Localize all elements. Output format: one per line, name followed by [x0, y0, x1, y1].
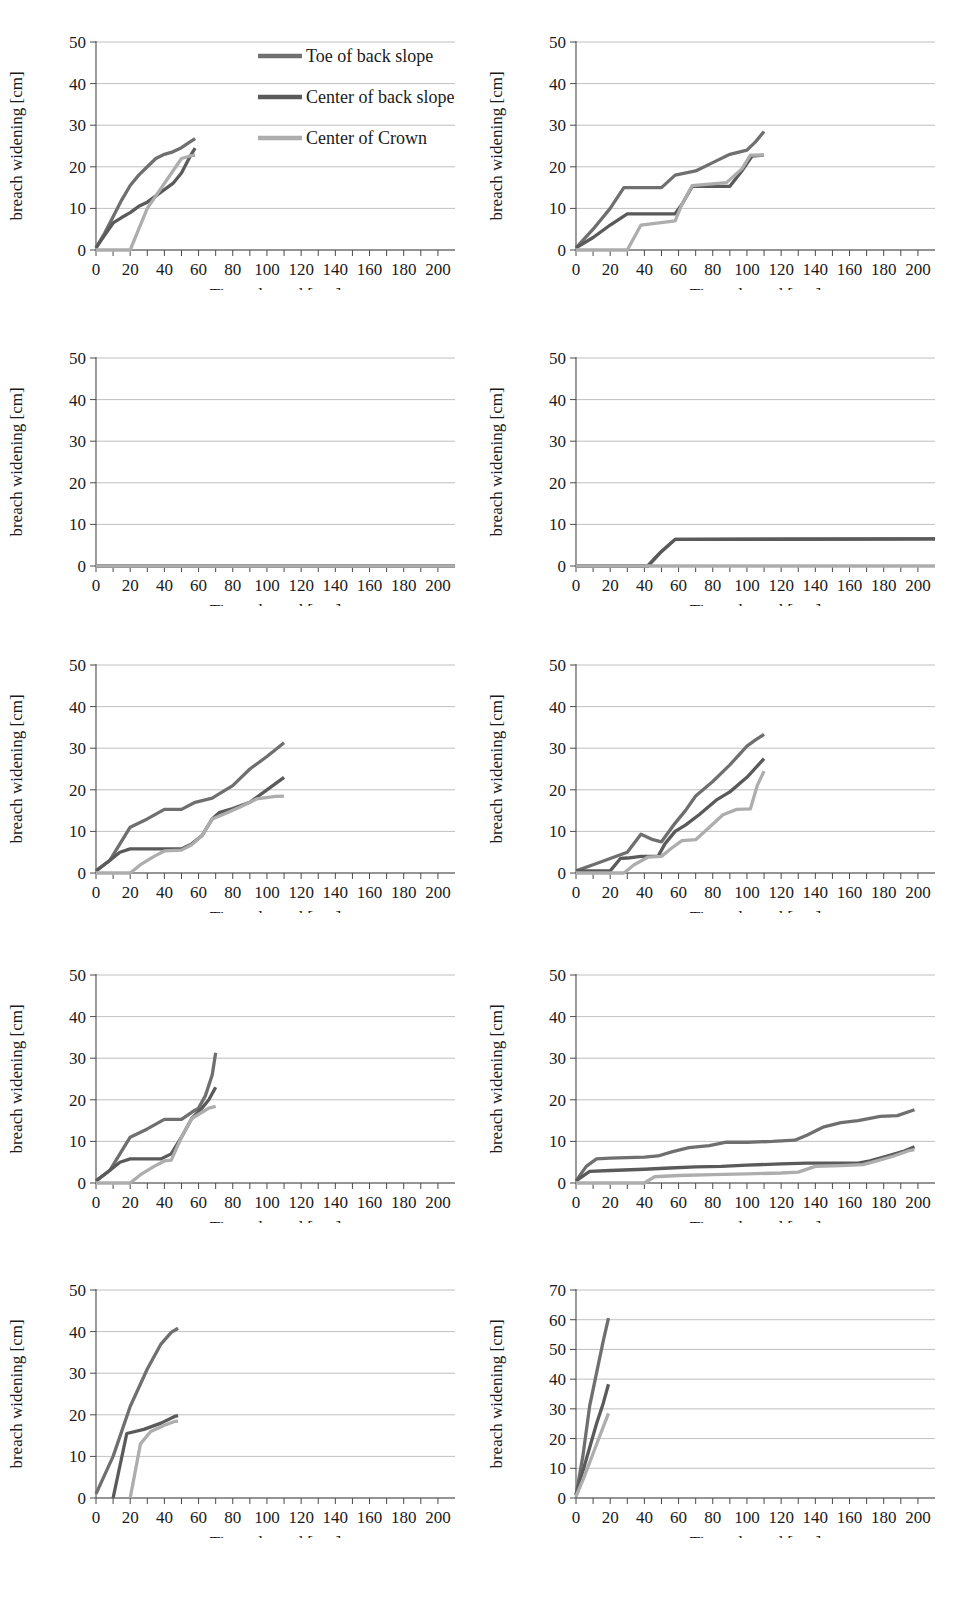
y-tick-label: 0 [558, 557, 567, 576]
y-tick-label: 40 [69, 391, 86, 410]
chart-svg: 0102030405060700204060801001201401601802… [480, 1270, 950, 1538]
x-tick-label: 100 [734, 260, 760, 279]
x-tick-label: 80 [224, 883, 241, 902]
y-tick-label: 40 [549, 698, 566, 717]
y-tick-label: 40 [69, 1323, 86, 1342]
x-tick-label: 140 [803, 883, 829, 902]
x-tick-label: 120 [288, 1508, 314, 1527]
x-axis-title: Time elapsed [sec] [210, 600, 342, 606]
y-axis-title: breach widening [cm] [487, 387, 506, 536]
x-tick-label: 140 [803, 576, 829, 595]
x-tick-label: 180 [391, 576, 417, 595]
x-tick-label: 100 [254, 1508, 280, 1527]
x-tick-label: 140 [323, 1193, 349, 1212]
x-tick-label: 40 [156, 1508, 173, 1527]
x-tick-label: 0 [92, 576, 101, 595]
x-tick-label: 160 [357, 260, 383, 279]
chart-svg: 01020304050020406080100120140160180200br… [480, 338, 950, 606]
y-tick-label: 40 [69, 698, 86, 717]
y-tick-label: 0 [558, 1174, 567, 1193]
y-tick-label: 0 [78, 1174, 87, 1193]
x-tick-label: 200 [905, 1508, 931, 1527]
y-tick-label: 50 [69, 1281, 86, 1300]
y-tick-label: 30 [69, 432, 86, 451]
y-axis-title: breach widening [cm] [487, 1004, 506, 1153]
y-tick-label: 50 [69, 656, 86, 675]
series-line [96, 1053, 216, 1181]
x-tick-label: 180 [391, 260, 417, 279]
y-tick-label: 10 [549, 822, 566, 841]
y-tick-label: 50 [69, 966, 86, 985]
x-tick-label: 200 [905, 260, 931, 279]
series-line [576, 539, 935, 566]
series-line [576, 155, 764, 250]
chart-svg: 01020304050020406080100120140160180200br… [0, 22, 470, 290]
x-tick-label: 0 [92, 260, 101, 279]
y-tick-label: 10 [549, 199, 566, 218]
x-axis-title: Time elapsed [sec] [690, 1532, 822, 1538]
y-tick-label: 20 [549, 1091, 566, 1110]
x-tick-label: 40 [636, 883, 653, 902]
y-tick-label: 10 [69, 822, 86, 841]
y-tick-label: 50 [549, 349, 566, 368]
x-tick-label: 20 [122, 576, 139, 595]
x-tick-label: 100 [254, 260, 280, 279]
chart-svg: 01020304050020406080100120140160180200br… [0, 645, 470, 913]
y-tick-label: 30 [549, 1400, 566, 1419]
x-tick-label: 200 [425, 576, 451, 595]
y-tick-label: 0 [558, 864, 567, 883]
x-tick-label: 20 [602, 1193, 619, 1212]
x-tick-label: 60 [670, 883, 687, 902]
x-axis-title: Time elapsed [sec] [210, 907, 342, 913]
y-tick-label: 70 [549, 1281, 566, 1300]
chart-panel-cases-2: 01020304050020406080100120140160180200br… [480, 955, 950, 1223]
x-tick-label: 160 [357, 576, 383, 595]
x-tick-label: 40 [156, 576, 173, 595]
y-tick-label: 30 [549, 116, 566, 135]
x-tick-label: 180 [871, 1508, 897, 1527]
x-tick-label: 80 [224, 260, 241, 279]
x-tick-label: 0 [572, 260, 581, 279]
chart-svg: 01020304050020406080100120140160180200br… [480, 22, 950, 290]
chart-panel-casew-3: 01020304050020406080100120140160180200br… [0, 338, 470, 606]
y-tick-label: 30 [69, 739, 86, 758]
x-tick-label: 20 [602, 883, 619, 902]
chart-svg: 01020304050020406080100120140160180200br… [480, 955, 950, 1223]
chart-svg: 01020304050020406080100120140160180200br… [0, 338, 470, 606]
x-tick-label: 20 [122, 1193, 139, 1212]
x-tick-label: 80 [224, 576, 241, 595]
x-tick-label: 160 [837, 1508, 863, 1527]
y-tick-label: 50 [549, 966, 566, 985]
x-tick-label: 60 [190, 1508, 207, 1527]
x-tick-label: 80 [704, 1193, 721, 1212]
y-tick-label: 20 [549, 1430, 566, 1449]
x-tick-label: 100 [734, 1508, 760, 1527]
x-tick-label: 200 [425, 260, 451, 279]
x-tick-label: 40 [156, 260, 173, 279]
x-tick-label: 180 [871, 576, 897, 595]
x-tick-label: 120 [768, 260, 794, 279]
y-tick-label: 40 [549, 75, 566, 94]
x-tick-label: 80 [224, 1508, 241, 1527]
y-tick-label: 50 [549, 1340, 566, 1359]
y-tick-label: 40 [69, 75, 86, 94]
y-tick-label: 20 [549, 158, 566, 177]
y-tick-label: 10 [69, 199, 86, 218]
y-tick-label: 50 [549, 656, 566, 675]
x-tick-label: 180 [391, 1193, 417, 1212]
x-axis-title: Time elapsed [sec] [690, 600, 822, 606]
x-tick-label: 140 [803, 1193, 829, 1212]
x-tick-label: 60 [190, 883, 207, 902]
x-tick-label: 180 [871, 1193, 897, 1212]
series-line [576, 155, 764, 248]
x-tick-label: 200 [905, 1193, 931, 1212]
y-tick-label: 10 [549, 1132, 566, 1151]
x-tick-label: 60 [670, 260, 687, 279]
x-tick-label: 60 [670, 1193, 687, 1212]
x-tick-label: 120 [768, 576, 794, 595]
x-tick-label: 160 [837, 260, 863, 279]
y-tick-label: 20 [69, 781, 86, 800]
y-axis-title: breach widening [cm] [7, 71, 26, 220]
x-tick-label: 40 [156, 1193, 173, 1212]
y-axis-title: breach widening [cm] [487, 71, 506, 220]
